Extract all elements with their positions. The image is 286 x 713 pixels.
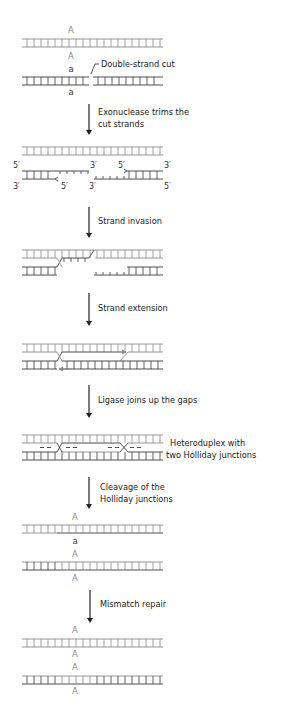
arrow-head-icon [86, 504, 92, 509]
duplex-A-intact [22, 39, 163, 47]
holliday-junction-right [120, 443, 128, 452]
duplex-A-intact-2 [22, 147, 163, 155]
arrow-cleavage: Cleavage of the Holliday junctions [86, 477, 173, 509]
stage-initial: A A a a Double-strand cut [22, 25, 176, 97]
heteroduplex-label-line1: Heteroduplex with [170, 438, 245, 448]
five-prime-label: 5′ [118, 161, 125, 170]
arrow-exonuclease: Exonuclease trims the cut strands [86, 104, 189, 135]
allele-label-A-top: A [68, 25, 74, 35]
strand-crossover [57, 352, 126, 361]
cleavage-label-line1: Cleavage of the [100, 482, 165, 492]
arrow-mismatch-repair: Mismatch repair [87, 590, 167, 623]
heteroduplex-label-line2: two Holliday junctions [166, 450, 256, 460]
five-prime-label: 5′ [61, 182, 68, 191]
cleavage-label-line2: Holliday junctions [100, 494, 173, 504]
stage-heteroduplex [22, 435, 163, 460]
allele-label-A: A [72, 549, 78, 559]
duplex-recombinant-1 [22, 525, 163, 533]
three-prime-label: 3′ [90, 161, 97, 170]
allele-label-A: A [72, 625, 78, 635]
stage-trimmed: 5′ 3′ 5′ 3′ 3′ 5′ 3′ 5′ [13, 147, 171, 191]
holliday-junction-left [57, 443, 62, 452]
ligase-label: Ligase joins up the gaps [98, 395, 197, 405]
allele-label-a: a [72, 536, 77, 546]
arrow-strand-extension: Strand extension [86, 293, 168, 326]
five-prime-label: 5′ [13, 161, 20, 170]
strand-crossover [57, 250, 94, 267]
strand-invasion-label: Strand invasion [98, 216, 162, 226]
stage-extension [22, 344, 163, 371]
allele-label-a-top: a [68, 64, 73, 74]
allele-label-A: A [72, 662, 78, 672]
allele-label-A: A [72, 649, 78, 659]
exonuclease-label-line1: Exonuclease trims the [98, 107, 189, 117]
five-prime-label: 5′ [164, 182, 171, 191]
stage-cleaved: A a A A [22, 512, 163, 583]
double-strand-cut-label: Double-strand cut [101, 59, 176, 69]
arrow-head-icon [86, 130, 92, 135]
homologous-recombination-diagram: A A a a Double-strand cut Exonuclease tr… [0, 0, 286, 713]
three-prime-label: 3′ [13, 182, 20, 191]
exonuclease-label-line2: cut strands [98, 119, 144, 129]
allele-label-A: A [72, 573, 78, 583]
three-prime-label: 3′ [89, 182, 96, 191]
stage-repaired: A A A A [22, 625, 163, 696]
arrow-head-icon [86, 321, 92, 326]
allele-label-A-bottom: A [68, 51, 74, 61]
duplex-repaired-2 [22, 676, 163, 684]
duplex-a-trimmed [22, 169, 163, 181]
allele-label-A: A [72, 686, 78, 696]
allele-label-A: A [72, 512, 78, 522]
allele-label-a-bottom: a [68, 87, 73, 97]
arrow-ligase: Ligase joins up the gaps [86, 385, 197, 418]
arrow-head-icon [86, 233, 92, 238]
duplex-repaired-1 [22, 639, 163, 647]
arrow-head-icon [87, 618, 93, 623]
stage-invasion [22, 250, 163, 275]
arrow-strand-invasion: Strand invasion [86, 207, 162, 238]
duplex-recombinant-2 [22, 562, 163, 570]
duplex-a-cut [22, 77, 163, 85]
three-prime-label: 3′ [164, 161, 171, 170]
strand-end-arrow [55, 177, 58, 181]
extension-arrow [59, 367, 63, 371]
strand-extension-label: Strand extension [98, 303, 168, 313]
arrow-head-icon [86, 413, 92, 418]
cut-pointer-line [91, 64, 99, 74]
mismatch-repair-label: Mismatch repair [100, 599, 167, 609]
